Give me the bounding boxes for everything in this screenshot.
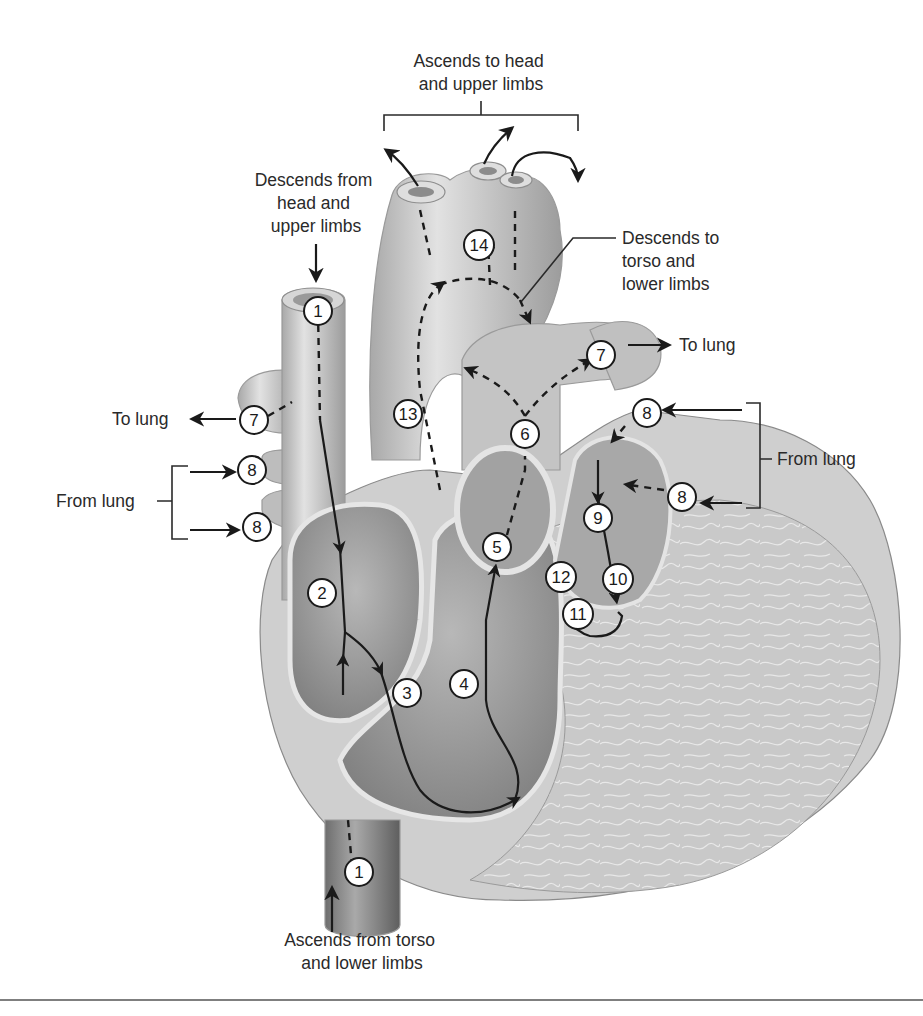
marker-8-left-bottom: 8 bbox=[243, 513, 271, 541]
marker-13: 13 bbox=[394, 400, 422, 428]
ascends-bracket bbox=[384, 101, 578, 131]
label-to-lung-left: To lung bbox=[112, 409, 168, 429]
marker-7-right: 7 bbox=[587, 341, 615, 369]
label-ascends-from-torso: Ascends from torso and lower limbs bbox=[284, 930, 440, 973]
svg-text:6: 6 bbox=[520, 425, 529, 444]
marker-3: 3 bbox=[393, 679, 421, 707]
marker-14: 14 bbox=[464, 230, 494, 260]
svg-text:2: 2 bbox=[317, 584, 326, 603]
svg-text:11: 11 bbox=[569, 605, 587, 624]
marker-4: 4 bbox=[450, 670, 478, 698]
flow-exit-carotid bbox=[484, 128, 512, 164]
label-to-lung-right: To lung bbox=[679, 335, 735, 355]
svg-text:8: 8 bbox=[642, 404, 651, 423]
marker-8-right-top: 8 bbox=[633, 399, 661, 427]
marker-6: 6 bbox=[511, 420, 539, 448]
from-lung-left-bracket bbox=[157, 466, 188, 539]
label-descends-from-head: Descends from head and upper limbs bbox=[255, 170, 378, 236]
svg-text:9: 9 bbox=[593, 509, 602, 528]
marker-8-left-top: 8 bbox=[238, 456, 266, 484]
label-descends-to-torso: Descends to torso and lower limbs bbox=[622, 228, 724, 294]
svg-text:13: 13 bbox=[399, 405, 418, 424]
marker-10: 10 bbox=[603, 564, 633, 594]
marker-5: 5 bbox=[483, 533, 511, 561]
svg-text:1: 1 bbox=[354, 863, 363, 882]
svg-text:12: 12 bbox=[552, 568, 571, 587]
marker-1-bottom: 1 bbox=[345, 858, 373, 886]
marker-7-left: 7 bbox=[240, 406, 268, 434]
heart-blood-flow-diagram: 1 1 2 3 4 5 6 7 7 8 8 8 8 9 10 11 12 13 … bbox=[0, 0, 923, 1016]
svg-text:3: 3 bbox=[402, 684, 411, 703]
svg-text:7: 7 bbox=[596, 346, 605, 365]
svg-text:8: 8 bbox=[252, 518, 261, 537]
svg-text:8: 8 bbox=[677, 488, 686, 507]
svg-text:14: 14 bbox=[470, 236, 489, 255]
label-from-lung-right: From lung bbox=[777, 449, 856, 469]
marker-2: 2 bbox=[308, 579, 336, 607]
svg-text:4: 4 bbox=[459, 675, 468, 694]
svg-text:8: 8 bbox=[247, 461, 256, 480]
flow-exit-brachiocephalic bbox=[386, 150, 418, 186]
marker-12: 12 bbox=[546, 562, 576, 592]
label-ascends-to-head: Ascends to head and upper limbs bbox=[413, 51, 548, 94]
marker-8-right-bottom: 8 bbox=[668, 483, 696, 511]
marker-11: 11 bbox=[563, 599, 593, 629]
marker-1-top: 1 bbox=[304, 297, 332, 325]
svg-text:10: 10 bbox=[609, 570, 628, 589]
heart-illustration bbox=[238, 162, 900, 936]
svg-text:1: 1 bbox=[313, 302, 322, 321]
label-from-lung-left: From lung bbox=[56, 491, 135, 511]
svg-text:7: 7 bbox=[249, 411, 258, 430]
svg-text:5: 5 bbox=[492, 538, 501, 557]
marker-9: 9 bbox=[584, 504, 612, 532]
